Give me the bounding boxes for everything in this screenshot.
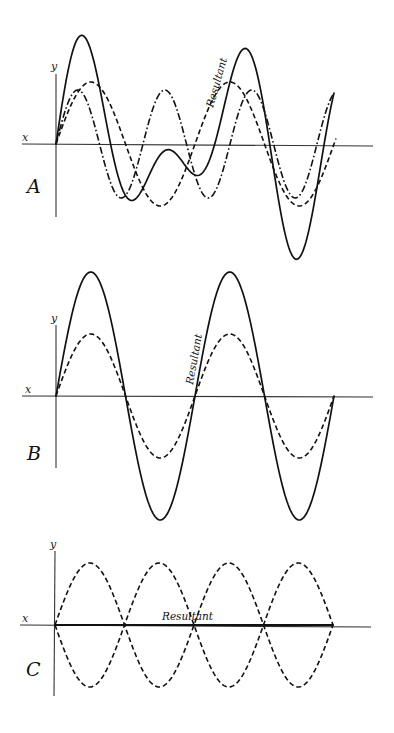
panel-label-b: B: [26, 442, 41, 464]
y-axis-label: y: [49, 538, 57, 551]
panel-b: x y B Resultant: [22, 272, 373, 520]
panel-a: x y A Resultant: [22, 35, 373, 259]
x-axis: [22, 144, 373, 146]
panel-label-c: C: [26, 658, 41, 680]
resultant-label: Resultant: [161, 610, 214, 622]
y-axis-label: y: [50, 312, 58, 325]
panel-c: x y C Resultant: [20, 538, 371, 696]
panel-label-a: A: [25, 175, 41, 197]
x-axis: [22, 396, 373, 397]
x-axis-label: x: [25, 383, 32, 396]
wave-superposition-figure: x y A Resultant x y B Resultant x y C Re…: [0, 0, 394, 733]
y-axis-label: y: [50, 60, 58, 73]
x-axis-label: x: [22, 612, 29, 625]
resultant-wave: [56, 35, 334, 259]
x-axis-label: x: [22, 131, 29, 144]
